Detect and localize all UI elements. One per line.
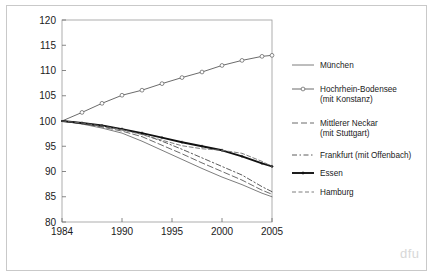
series-marker (140, 88, 144, 92)
legend-label: Frankfurt (mit Offenbach) (320, 151, 412, 160)
legend-label: Essen (320, 169, 343, 178)
series-marker (160, 82, 164, 86)
y-axis-label: 95 (45, 141, 57, 152)
y-axis-label: 105 (39, 90, 56, 101)
legend-entry-4[interactable]: Frankfurt (mit Offenbach) (292, 151, 412, 160)
legend-label: München (320, 61, 354, 70)
y-axis-label: 90 (45, 166, 57, 177)
watermark-logo: dfu (400, 246, 420, 261)
x-axis-label: 1984 (51, 226, 74, 237)
legend-label-secondary: (mit Stuttgart) (320, 129, 370, 138)
chart-figure: 8085909510010511011512019841990199520002… (0, 0, 433, 277)
series-marker (240, 59, 244, 63)
legend-label-secondary: (mit Konstanz) (320, 95, 373, 104)
x-axis-label: 2000 (211, 226, 234, 237)
legend-entry-3[interactable]: Mittlerer Neckar(mit Stuttgart) (292, 119, 378, 138)
y-axis-label: 115 (40, 40, 56, 51)
legend-entry-6[interactable]: Hamburg (292, 188, 354, 197)
line-chart: 8085909510010511011512019841990199520002… (0, 0, 433, 277)
y-axis-label: 85 (45, 191, 57, 202)
legend-swatch-marker (301, 87, 305, 91)
legend-label: Mittlerer Neckar (320, 119, 378, 128)
x-axis-label: 1990 (111, 226, 134, 237)
plot-area-border (62, 20, 272, 222)
legend-entry-1[interactable]: München (292, 61, 354, 70)
series-marker (180, 76, 184, 80)
y-axis-label: 110 (40, 65, 56, 76)
series-marker (270, 53, 274, 57)
series-marker (100, 101, 104, 105)
legend-label: Hochrhein-Bodensee (320, 85, 397, 94)
legend-swatch-marker (302, 172, 305, 175)
x-axis-label: 2005 (261, 226, 284, 237)
legend-label: Hamburg (320, 188, 354, 197)
series-marker (220, 64, 224, 68)
legend-entry-5[interactable]: Essen (292, 169, 343, 178)
series-marker (260, 54, 264, 58)
y-axis-label: 100 (39, 116, 56, 127)
series-marker (200, 70, 204, 74)
legend-entry-2[interactable]: Hochrhein-Bodensee(mit Konstanz) (292, 85, 397, 104)
x-axis-label: 1995 (161, 226, 184, 237)
series-marker (120, 93, 124, 97)
series-marker (80, 111, 84, 115)
y-axis-label: 120 (39, 15, 56, 26)
